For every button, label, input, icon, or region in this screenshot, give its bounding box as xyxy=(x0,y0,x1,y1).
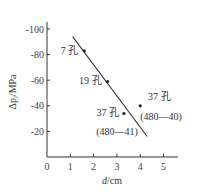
data-point: 37 孔(480—40) xyxy=(139,91,182,123)
y-tick-label: -60 xyxy=(31,75,44,86)
y-tick-label: -100 xyxy=(26,24,44,35)
x-tick-label: 1 xyxy=(68,161,73,172)
y-axis-title: Δpi/MPa xyxy=(7,74,20,110)
x-tick-label: 3 xyxy=(114,161,119,172)
chart: -20-40-60-80-100 012345 7 孔19 孔37 孔(480—… xyxy=(0,0,223,192)
y-tick-label: -20 xyxy=(31,126,44,137)
point-marker xyxy=(106,80,109,83)
point-label: 37 孔 xyxy=(148,91,171,102)
y-tick-label: -80 xyxy=(31,49,44,60)
point-marker xyxy=(83,49,86,52)
data-point: 19 孔 xyxy=(79,75,109,86)
y-ticks: -20-40-60-80-100 xyxy=(26,24,50,137)
y-tick-label: -40 xyxy=(31,100,44,111)
point-label: 19 孔 xyxy=(79,75,102,86)
x-tick-label: 4 xyxy=(138,161,143,172)
point-marker xyxy=(122,112,125,115)
point-marker xyxy=(139,104,142,107)
point-label: 37 孔 xyxy=(96,107,119,118)
data-points: 7 孔19 孔37 孔(480—41)37 孔(480—40) xyxy=(61,45,182,138)
svg-text:Δpi/MPa: Δpi/MPa xyxy=(7,74,20,110)
point-sublabel: (480—40) xyxy=(140,111,182,123)
x-tick-label: 2 xyxy=(91,161,96,172)
x-axis-title: d/cm xyxy=(102,175,122,186)
x-tick-label: 5 xyxy=(161,161,166,172)
point-label: 7 孔 xyxy=(61,45,79,56)
point-sublabel: (480—41) xyxy=(96,126,138,138)
data-point: 37 孔(480—41) xyxy=(96,107,138,138)
x-tick-label: 0 xyxy=(45,161,50,172)
